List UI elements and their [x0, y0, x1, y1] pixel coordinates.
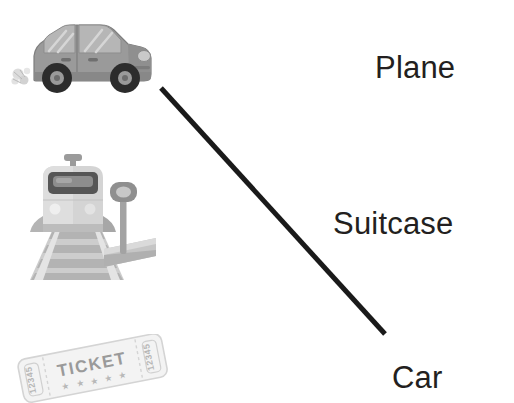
- label-suitcase[interactable]: Suitcase: [333, 208, 454, 239]
- matching-exercise-canvas: 12345 12345 TICKET ★ ★ ★ ★ ★ Plane Suitc…: [0, 0, 514, 403]
- label-plane[interactable]: Plane: [375, 52, 455, 83]
- label-car[interactable]: Car: [392, 362, 443, 393]
